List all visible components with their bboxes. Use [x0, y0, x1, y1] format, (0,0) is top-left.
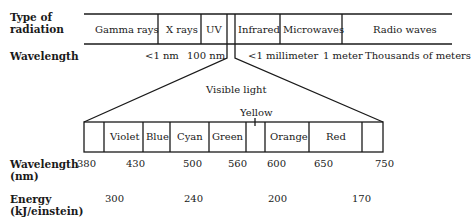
wavelength-nm-label: Wavelength(nm): [10, 158, 79, 182]
band-blue: Blue: [146, 131, 169, 143]
wl-mark-1nm: <1 nm: [145, 50, 179, 62]
yellow-label: Yellow: [240, 107, 273, 119]
band-microwaves: Microwaves: [283, 24, 344, 36]
band-radio: Radio waves: [373, 24, 437, 36]
band-gamma: Gamma rays: [95, 24, 159, 36]
energy-300: 300: [105, 193, 124, 205]
energy-label: Energy(kJ/einstein): [10, 193, 83, 217]
energy-200: 200: [268, 193, 287, 205]
wl-380: 380: [77, 158, 96, 170]
band-green: Green: [212, 131, 243, 143]
label-line-1: Type of: [10, 11, 52, 23]
band-violet: Violet: [110, 131, 139, 143]
band-xrays: X rays: [166, 24, 198, 36]
band-cyan: Cyan: [177, 131, 203, 143]
band-orange: Orange: [270, 131, 308, 143]
energy-240: 240: [184, 193, 203, 205]
wl-650: 650: [314, 158, 333, 170]
wl-600: 600: [267, 158, 286, 170]
wl-mark-1mm: <1 millimeter: [248, 50, 318, 62]
wl-750: 750: [375, 158, 394, 170]
label-line-2: (kJ/einstein): [10, 205, 83, 217]
wl-mark-100nm: 100 nm: [187, 50, 225, 62]
band-uv: UV: [206, 24, 222, 36]
energy-170: 170: [352, 193, 371, 205]
wl-mark-1m: 1 meter: [323, 50, 363, 62]
label-line-1: Energy: [10, 193, 51, 205]
band-red: Red: [326, 131, 346, 143]
band-infrared: Infrared: [238, 24, 280, 36]
label-line-2: radiation: [10, 23, 64, 35]
label-line-2: (nm): [10, 170, 39, 182]
wavelength-label: Wavelength: [10, 50, 79, 62]
wl-500: 500: [183, 158, 202, 170]
wl-430: 430: [126, 158, 145, 170]
wl-560: 560: [228, 158, 247, 170]
wl-mark-thousands: Thousands of meters: [365, 50, 471, 62]
label-line-1: Wavelength: [10, 158, 79, 170]
type-of-radiation-label: Type ofradiation: [10, 11, 64, 35]
visible-light-label: Visible light: [206, 84, 267, 96]
